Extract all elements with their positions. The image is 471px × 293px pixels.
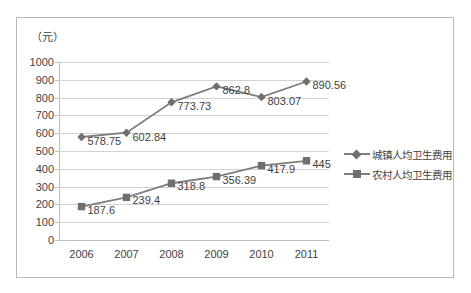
y-tick-label: 500 (36, 145, 54, 157)
y-tick-label: 0 (48, 234, 54, 246)
data-point-marker (78, 203, 85, 210)
square-marker-icon (344, 168, 370, 180)
y-tick-label: 200 (36, 198, 54, 210)
data-label: 862.8 (223, 84, 251, 96)
data-label: 318.8 (178, 180, 206, 192)
chart-legend: 城镇人均卫生费用 农村人均卫生费用 (344, 144, 450, 184)
y-tick-label: 900 (36, 74, 54, 86)
data-label: 445 (313, 158, 331, 170)
data-label: 803.07 (268, 95, 302, 107)
legend-label-rural: 农村人均卫生费用 (372, 167, 452, 182)
plot-area: 01002003004005006007008009001000 2006200… (59, 62, 329, 240)
data-point-marker (123, 194, 130, 201)
legend-item-urban[interactable]: 城镇人均卫生费用 (344, 144, 450, 164)
x-tick-label: 2009 (204, 248, 228, 260)
y-tick-label: 300 (36, 181, 54, 193)
data-point-marker (302, 77, 310, 85)
x-tick-label: 2007 (114, 248, 138, 260)
data-point-marker (77, 133, 85, 141)
chart-container: （元） 01002003004005006007008009001000 200… (16, 17, 454, 278)
x-tick-label: 2010 (249, 248, 273, 260)
data-point-marker (258, 162, 265, 169)
data-label: 602.84 (133, 131, 167, 143)
data-label: 890.56 (313, 79, 347, 91)
data-point-marker (213, 173, 220, 180)
y-tick-label: 100 (36, 216, 54, 228)
data-label: 578.75 (88, 135, 122, 147)
data-label: 417.9 (268, 163, 296, 175)
diamond-marker-icon (344, 148, 370, 160)
legend-label-urban: 城镇人均卫生费用 (372, 147, 452, 162)
y-tick-label: 600 (36, 127, 54, 139)
data-label: 773.73 (178, 100, 212, 112)
legend-item-rural[interactable]: 农村人均卫生费用 (344, 164, 450, 184)
gridline (59, 240, 329, 241)
x-tick-label: 2011 (295, 248, 319, 260)
data-label: 187.6 (88, 204, 116, 216)
x-tick-label: 2008 (159, 248, 183, 260)
data-point-marker (303, 157, 310, 164)
data-label: 356.39 (223, 174, 257, 186)
y-tick-label: 800 (36, 92, 54, 104)
y-tick-label: 700 (36, 109, 54, 121)
y-tick-label: 400 (36, 163, 54, 175)
data-label: 239.4 (133, 194, 161, 206)
y-tick-label: 1000 (30, 56, 54, 68)
y-tick-mark (55, 240, 59, 241)
data-point-marker (168, 180, 175, 187)
data-point-marker (257, 93, 265, 101)
y-axis-unit-label: （元） (31, 28, 64, 44)
data-point-marker (212, 82, 220, 90)
x-tick-label: 2006 (69, 248, 93, 260)
